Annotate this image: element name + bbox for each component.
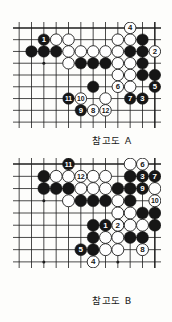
svg-text:10: 10 [77,95,85,102]
svg-text:8: 8 [140,245,145,254]
go-board-a-svg: 123456789101112 [13,22,161,128]
go-board-b: 123456789101112 [13,158,161,268]
svg-text:2: 2 [153,47,157,56]
svg-text:1: 1 [103,221,108,230]
caption-b: 참고도 B [0,293,172,307]
svg-text:11: 11 [65,95,72,102]
svg-text:12: 12 [102,107,110,114]
go-diagram-b: 123456789101112 참고도 B [0,155,172,322]
svg-text:10: 10 [151,197,159,204]
svg-text:8: 8 [91,106,96,115]
svg-text:3: 3 [140,172,145,181]
svg-text:4: 4 [128,23,133,32]
svg-text:9: 9 [140,184,145,193]
svg-text:3: 3 [140,94,145,103]
svg-text:11: 11 [65,161,73,168]
svg-text:4: 4 [91,257,96,266]
go-diagram-a: 123456789101112 참고도 A [0,0,172,161]
svg-text:12: 12 [77,173,85,180]
svg-text:6: 6 [116,82,121,91]
svg-text:5: 5 [79,245,84,254]
svg-text:6: 6 [140,160,145,169]
page-root: 123456789101112 참고도 A 123456789101112 참고… [0,0,172,322]
caption-a: 참고도 A [0,133,172,147]
go-board-a: 123456789101112 [13,22,161,128]
svg-text:7: 7 [128,94,132,103]
svg-text:5: 5 [153,82,158,91]
svg-text:9: 9 [79,106,83,115]
svg-text:7: 7 [153,172,158,181]
svg-text:1: 1 [42,35,47,44]
go-board-b-svg: 123456789101112 [13,158,161,268]
svg-text:2: 2 [116,221,121,230]
